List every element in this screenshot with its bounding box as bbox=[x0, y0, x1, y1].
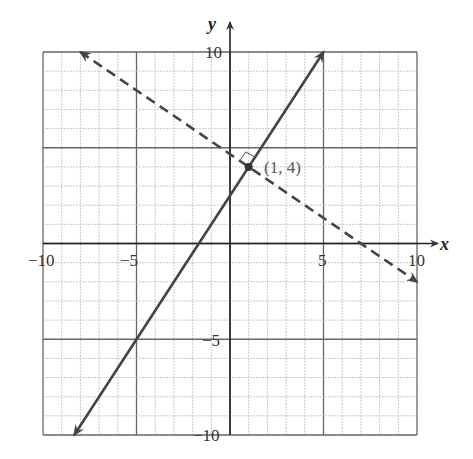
x-tick-10: 10 bbox=[408, 251, 425, 270]
x-tick-neg5: −5 bbox=[120, 251, 138, 270]
y-tick-10: 10 bbox=[205, 43, 222, 62]
coordinate-plane: x y −10 −5 5 10 10 −5 −10 (1, 4) bbox=[0, 0, 473, 459]
point-label: (1, 4) bbox=[264, 158, 301, 177]
x-tick-5: 5 bbox=[318, 251, 327, 270]
x-axis-label: x bbox=[439, 234, 449, 254]
x-tick-neg10: −10 bbox=[28, 251, 55, 270]
y-tick-neg5: −5 bbox=[202, 331, 220, 350]
axes bbox=[43, 22, 438, 435]
y-tick-neg10: −10 bbox=[193, 426, 220, 445]
labels: x y −10 −5 5 10 10 −5 −10 (1, 4) bbox=[28, 14, 449, 445]
y-axis-label: y bbox=[206, 14, 217, 34]
